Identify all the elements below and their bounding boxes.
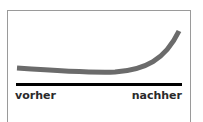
label-after: nachher <box>132 89 182 102</box>
trend-curve <box>17 31 179 72</box>
trend-plot <box>0 0 203 122</box>
label-before: vorher <box>15 89 56 102</box>
